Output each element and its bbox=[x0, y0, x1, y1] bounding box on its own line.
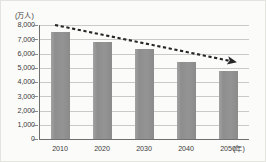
population-bar-chart: (万人) 8,0007,0006,0005,0004,0003,0002,000… bbox=[0, 0, 266, 162]
bar-2050 bbox=[219, 71, 238, 139]
y-axis-tick-label: 0 bbox=[1, 135, 35, 142]
bar-2020 bbox=[93, 42, 112, 139]
bar-2010 bbox=[51, 32, 70, 139]
gridline bbox=[39, 25, 249, 26]
y-axis-tick bbox=[33, 139, 38, 140]
y-axis-tick-label: 7,000 bbox=[1, 36, 35, 43]
y-axis-tick bbox=[33, 96, 38, 97]
y-axis-tick bbox=[33, 25, 38, 26]
gridline bbox=[39, 39, 249, 40]
bar-2040 bbox=[177, 62, 196, 139]
y-axis-line bbox=[39, 25, 40, 140]
gridline bbox=[39, 139, 249, 140]
x-axis-tick-label: 2020 bbox=[82, 145, 122, 153]
y-axis-tick bbox=[33, 54, 38, 55]
y-axis-tick bbox=[33, 39, 38, 40]
plot-area bbox=[39, 25, 249, 139]
x-axis-unit-label: (年) bbox=[233, 145, 245, 153]
y-axis-tick-label: 4,000 bbox=[1, 78, 35, 85]
y-axis-tick-label: 2,000 bbox=[1, 107, 35, 114]
y-axis-tick bbox=[33, 111, 38, 112]
y-axis-tick bbox=[33, 82, 38, 83]
y-axis-tick-label: 5,000 bbox=[1, 64, 35, 71]
y-axis-tick bbox=[33, 125, 38, 126]
x-axis-tick-label: 2010 bbox=[40, 145, 80, 153]
y-axis-tick bbox=[33, 68, 38, 69]
y-axis-tick-label: 3,000 bbox=[1, 93, 35, 100]
y-axis-tick-label: 1,000 bbox=[1, 121, 35, 128]
x-axis-tick-label: 2030 bbox=[124, 145, 164, 153]
y-axis-tick-label: 6,000 bbox=[1, 50, 35, 57]
x-axis-tick-label: 2040 bbox=[166, 145, 206, 153]
y-axis-tick-label: 8,000 bbox=[1, 21, 35, 28]
bar-2030 bbox=[135, 49, 154, 139]
y-axis-unit-label: (万人) bbox=[15, 12, 34, 20]
